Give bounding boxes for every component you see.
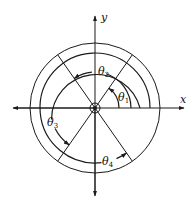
diagram-canvas	[0, 0, 192, 201]
theta3-label: θ3	[47, 117, 58, 130]
x-axis-label: x	[180, 94, 186, 105]
theta4-label: θ4	[102, 156, 113, 169]
origin-dot	[93, 106, 97, 110]
theta4-arc-b	[117, 153, 127, 159]
y-axis-label: y	[101, 12, 107, 23]
polar-angle-diagram: y x θ1 θ2 θ3 θ4	[0, 0, 192, 201]
theta3-arc-b	[55, 129, 69, 145]
theta1-label: θ1	[118, 92, 129, 105]
theta2-label: θ2	[98, 66, 109, 79]
